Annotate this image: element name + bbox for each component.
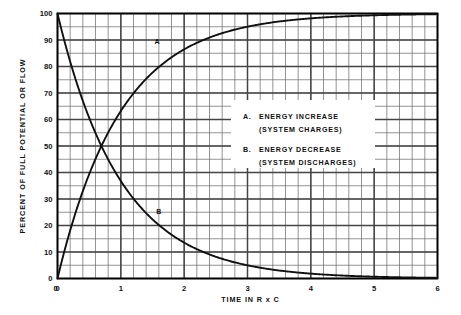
y-tick-label: 0 [48, 274, 52, 283]
x-axis-title: TIME IN R x C [221, 295, 279, 304]
legend-entry-b-line2: (SYSTEM DISCHARGES) [259, 159, 356, 167]
y-tick-label: 20 [44, 221, 52, 230]
chart-background [0, 0, 461, 315]
y-axis-title: PERCENT OF FULL POTENTIAL OR FLOW [18, 59, 27, 234]
legend-entry-a-line1: ENERGY INCREASE [259, 113, 339, 121]
y-tick-label: 40 [44, 168, 52, 177]
rc-time-constant-chart: A. ENERGY INCREASE (SYSTEM CHARGES) B. E… [0, 0, 461, 315]
chart-legend: A. ENERGY INCREASE (SYSTEM CHARGES) B. E… [231, 100, 375, 168]
y-tick-label: 70 [44, 89, 52, 98]
x-tick-label: 3 [245, 284, 249, 293]
legend-entry-a-line2: (SYSTEM CHARGES) [259, 126, 342, 134]
curve-label-b: B [156, 208, 161, 215]
y-tick-label: 90 [44, 36, 52, 45]
y-tick-label: 80 [44, 62, 52, 71]
y-tick-label: 30 [44, 195, 52, 204]
legend-entry-b-line1: ENERGY DECREASE [259, 146, 341, 154]
curve-label-a: A [154, 38, 159, 45]
chart-figure: A. ENERGY INCREASE (SYSTEM CHARGES) B. E… [0, 0, 461, 315]
x-tick-label: 6 [435, 284, 439, 293]
legend-entry-a-key: A. [243, 113, 252, 121]
legend-background [231, 100, 375, 168]
y-tick-label: 50 [44, 142, 52, 151]
y-tick-label: 10 [44, 248, 52, 257]
origin-label: 0 [53, 284, 57, 293]
y-tick-label: 100 [40, 9, 53, 18]
legend-entry-b-key: B. [243, 146, 252, 154]
y-tick-label: 60 [44, 115, 52, 124]
x-tick-label: 2 [182, 284, 186, 293]
